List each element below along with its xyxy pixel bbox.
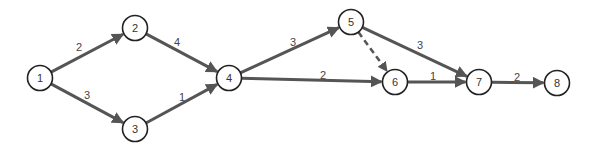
node-label: 6	[392, 76, 398, 88]
node-label: 2	[132, 22, 138, 34]
network-diagram: 234132312 12345678	[0, 0, 599, 151]
edge-4-6	[241, 78, 381, 81]
edge-weight-7-8: 2	[514, 71, 520, 83]
node-label: 8	[554, 77, 560, 89]
node-label: 4	[226, 72, 232, 84]
node-label: 3	[132, 123, 138, 135]
edge-5-7	[362, 27, 466, 76]
node-3: 3	[123, 117, 148, 142]
node-label: 7	[476, 76, 482, 88]
nodes-layer: 12345678	[28, 10, 570, 142]
node-7: 7	[467, 70, 492, 95]
edge-weight-6-7: 1	[430, 70, 436, 82]
edge-2-4	[146, 34, 217, 72]
node-5: 5	[339, 10, 364, 35]
node-6: 6	[383, 70, 408, 95]
edge-weight-2-4: 4	[174, 36, 180, 48]
node-label: 1	[37, 72, 43, 84]
node-2: 2	[123, 16, 148, 41]
node-1: 1	[28, 66, 53, 91]
edge-weight-1-2: 2	[76, 41, 82, 53]
node-8: 8	[545, 71, 570, 96]
node-4: 4	[217, 66, 242, 91]
edge-1-2	[51, 34, 123, 72]
edge-weight-4-6: 2	[320, 69, 326, 81]
node-label: 5	[348, 16, 354, 28]
edge-weight-5-7: 3	[417, 39, 423, 51]
edge-weight-4-5: 3	[290, 36, 296, 48]
edge-4-5	[240, 28, 338, 73]
edge-weight-3-4: 1	[179, 91, 185, 103]
edge-weight-1-3: 3	[84, 89, 90, 101]
